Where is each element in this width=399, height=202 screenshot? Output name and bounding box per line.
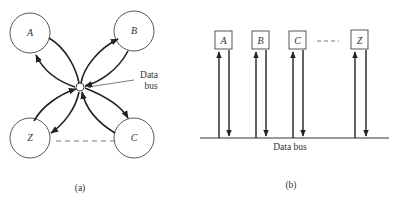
bus-label: Data bus xyxy=(273,142,307,152)
node-c-label: C xyxy=(131,132,138,143)
figure-a: A B Z C Data bus (a) xyxy=(10,11,159,194)
figure-b: A B C Z Data bus (b) xyxy=(200,30,389,191)
node-b-label: B xyxy=(131,25,137,36)
box-z-label: Z xyxy=(357,35,363,46)
node-z-label: Z xyxy=(27,132,33,143)
bus-diagram: A B Z C Data bus (a) A B C Z xyxy=(0,0,399,202)
node-a-label: A xyxy=(26,27,34,38)
caption-b: (b) xyxy=(285,180,296,191)
caption-a: (a) xyxy=(75,183,86,194)
bus-connections xyxy=(219,50,366,138)
hub-pointer xyxy=(88,80,134,87)
box-c-label: C xyxy=(294,35,301,46)
hub-label-line2: bus xyxy=(144,81,158,91)
data-bus-hub xyxy=(76,83,84,91)
hub-label-line1: Data xyxy=(140,70,159,80)
box-b-label: B xyxy=(257,35,263,46)
box-a-label: A xyxy=(219,35,227,46)
